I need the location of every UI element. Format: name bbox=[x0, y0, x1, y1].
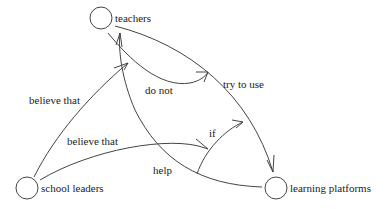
node-teachers[interactable] bbox=[90, 7, 112, 29]
label-school-leaders: school leaders bbox=[41, 182, 104, 194]
edge-help bbox=[120, 33, 262, 187]
edge-believe-that-1 bbox=[34, 63, 128, 177]
label-teachers: teachers bbox=[115, 12, 151, 24]
label-if: if bbox=[209, 127, 216, 139]
node-school-leaders[interactable] bbox=[16, 177, 38, 199]
diagram-canvas: teachers school leaders learning platfor… bbox=[0, 0, 388, 209]
label-try-to-use: try to use bbox=[223, 78, 264, 90]
node-learning-platforms[interactable] bbox=[265, 177, 287, 199]
label-believe-that-1: believe that bbox=[29, 94, 80, 106]
label-learning-platforms: learning platforms bbox=[290, 182, 371, 194]
label-help: help bbox=[153, 164, 172, 176]
arrowhead-help bbox=[116, 33, 122, 47]
label-do-not: do not bbox=[145, 84, 173, 96]
edge-believe-that-2 bbox=[40, 143, 208, 180]
arrowhead-believe-that-2 bbox=[196, 139, 208, 149]
label-believe-that-2: believe that bbox=[67, 135, 118, 147]
edge-try-to-use bbox=[115, 26, 273, 172]
